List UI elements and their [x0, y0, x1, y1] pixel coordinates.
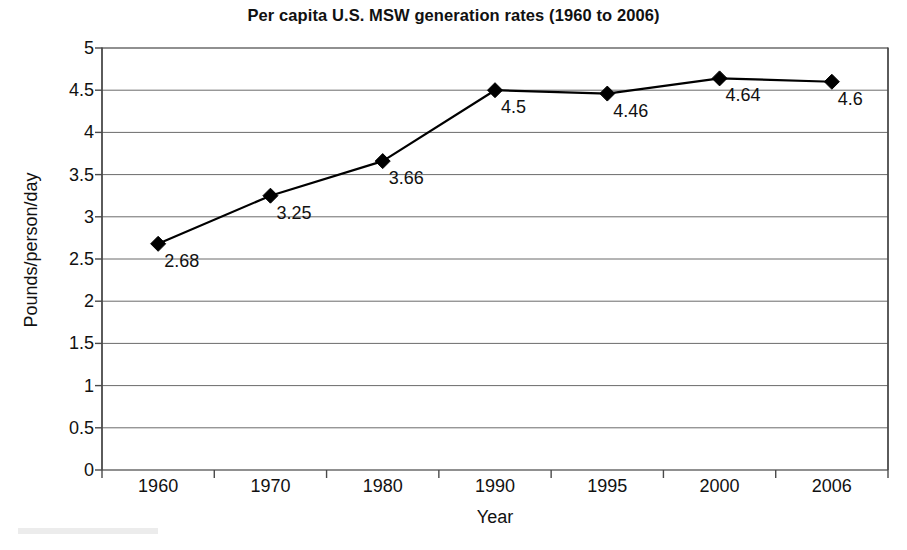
y-axis-tick-label: 3.5: [24, 164, 94, 185]
x-axis-tick-label: 2000: [660, 476, 780, 497]
y-axis-tick-labels: 54.543.532.521.510.50: [18, 48, 94, 470]
data-point-value-label: 4.64: [726, 85, 761, 106]
data-point-labels: 2.683.253.664.54.464.644.6: [102, 48, 888, 470]
x-axis-tick-label: 1995: [547, 476, 667, 497]
x-axis-tick-label: 1980: [323, 476, 443, 497]
data-point-value-label: 2.68: [164, 251, 199, 272]
data-point-value-label: 4.6: [838, 89, 863, 110]
x-axis-tick-label: 1990: [435, 476, 555, 497]
y-axis-tick-label: 2.5: [24, 249, 94, 270]
data-point-value-label: 4.5: [501, 97, 526, 118]
x-axis-tick-label: 2006: [772, 476, 892, 497]
scan-artifact: [18, 528, 158, 534]
y-axis-tick-label: 1: [24, 375, 94, 396]
x-axis-title: Year: [102, 507, 888, 528]
data-point-value-label: 3.25: [276, 203, 311, 224]
y-axis-tick-label: 1.5: [24, 333, 94, 354]
y-axis-tick-label: 4.5: [24, 80, 94, 101]
y-axis-tick-label: 5: [24, 38, 94, 59]
data-point-value-label: 3.66: [389, 168, 424, 189]
y-axis-tick-label: 3: [24, 206, 94, 227]
y-axis-tick-label: 0: [24, 460, 94, 481]
chart-figure: Per capita U.S. MSW generation rates (19…: [0, 0, 907, 550]
y-axis-tick-label: 0.5: [24, 417, 94, 438]
x-axis-tick-label: 1960: [98, 476, 218, 497]
x-axis-tick-label: 1970: [210, 476, 330, 497]
y-axis-tick-label: 2: [24, 291, 94, 312]
y-axis-tick-label: 4: [24, 122, 94, 143]
data-point-value-label: 4.46: [613, 101, 648, 122]
x-axis-tick-labels: 1960197019801990199520002006: [102, 476, 888, 504]
chart-title: Per capita U.S. MSW generation rates (19…: [0, 6, 907, 25]
